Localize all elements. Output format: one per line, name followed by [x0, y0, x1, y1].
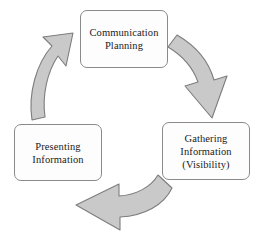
node-presenting-information-label: Presenting Information [29, 140, 86, 166]
node-communication-planning-label: Communication Planning [87, 26, 162, 52]
diagram-canvas: Communication Planning Gathering Informa… [0, 0, 263, 239]
node-presenting-information[interactable]: Presenting Information [14, 124, 102, 181]
arrow-planning-to-gathering-icon [168, 35, 227, 118]
arrow-presenting-to-planning-icon [31, 33, 73, 120]
node-gathering-information-label: Gathering Information (Visibility) [177, 132, 234, 171]
node-communication-planning[interactable]: Communication Planning [80, 10, 168, 68]
arrow-gathering-to-presenting-icon [76, 175, 172, 230]
node-gathering-information[interactable]: Gathering Information (Visibility) [162, 122, 250, 180]
